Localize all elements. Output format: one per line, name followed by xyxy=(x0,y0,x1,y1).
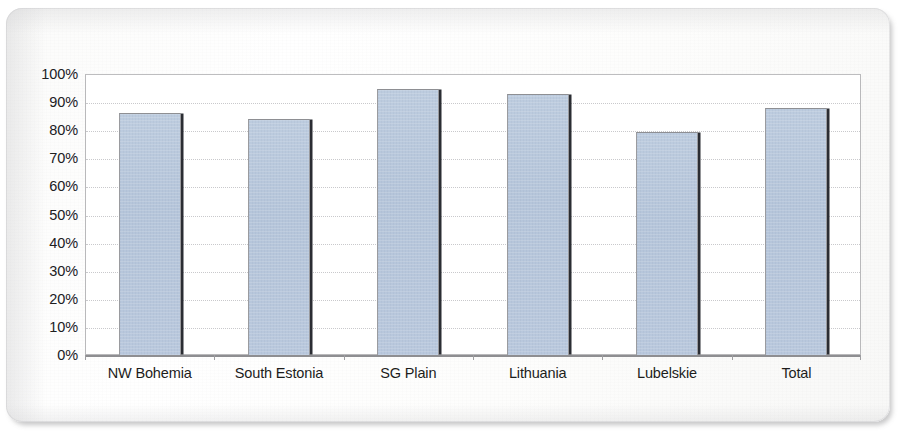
x-axis-tick-mark xyxy=(732,355,733,360)
bar-texture xyxy=(120,114,180,355)
bar-sg-plain[interactable] xyxy=(377,89,439,355)
x-axis-tick-mark xyxy=(344,355,345,360)
bars-layer xyxy=(85,74,861,355)
y-axis-tick-label: 0% xyxy=(6,348,78,363)
bar-nw-bohemia[interactable] xyxy=(119,113,181,355)
bar-south-estonia[interactable] xyxy=(248,119,310,355)
bar-lithuania[interactable] xyxy=(507,94,569,355)
x-axis-tick-mark xyxy=(85,355,86,360)
bar-total[interactable] xyxy=(765,108,827,355)
bar-slot xyxy=(85,74,214,355)
bar-lubelskie[interactable] xyxy=(636,132,698,355)
y-axis-tick-label: 20% xyxy=(6,292,78,307)
y-axis-tick-label: 30% xyxy=(6,264,78,279)
x-axis-tick-mark xyxy=(214,355,215,360)
y-axis-tick-label: 50% xyxy=(6,208,78,223)
x-axis-tick-mark xyxy=(860,355,861,360)
x-axis-category-label: NW Bohemia xyxy=(85,366,214,381)
scanned-page: 100%90%80%70%60%50%40%30%20%10%0% NW Boh… xyxy=(0,0,912,442)
x-axis-ticks xyxy=(85,355,861,363)
y-axis-tick-label: 80% xyxy=(6,123,78,138)
x-axis-category-label: South Estonia xyxy=(214,366,343,381)
y-axis-tick-label: 10% xyxy=(6,320,78,335)
bar-chart: 100%90%80%70%60%50%40%30%20%10%0% NW Boh… xyxy=(0,0,912,442)
x-axis-tick-mark xyxy=(602,355,603,360)
bar-slot xyxy=(473,74,602,355)
x-axis-category-label: SG Plain xyxy=(344,366,473,381)
y-axis-tick-label: 70% xyxy=(6,151,78,166)
bar-texture xyxy=(378,90,438,355)
bar-slot xyxy=(214,74,343,355)
x-axis-category-label: Lubelskie xyxy=(602,366,731,381)
y-axis-tick-label: 100% xyxy=(6,67,78,82)
bar-slot xyxy=(732,74,861,355)
bar-texture xyxy=(249,120,309,355)
y-axis-tick-label: 90% xyxy=(6,95,78,110)
bar-slot xyxy=(344,74,473,355)
bar-texture xyxy=(508,95,568,355)
x-axis-labels: NW BohemiaSouth EstoniaSG PlainLithuania… xyxy=(85,366,861,394)
y-axis-tick-label: 40% xyxy=(6,236,78,251)
x-axis-category-label: Total xyxy=(732,366,861,381)
y-axis-labels: 100%90%80%70%60%50%40%30%20%10%0% xyxy=(0,74,78,355)
bar-slot xyxy=(602,74,731,355)
x-axis-category-label: Lithuania xyxy=(473,366,602,381)
bar-texture xyxy=(637,133,697,355)
bar-texture xyxy=(766,109,826,355)
y-axis-tick-label: 60% xyxy=(6,179,78,194)
x-axis-tick-mark xyxy=(473,355,474,360)
